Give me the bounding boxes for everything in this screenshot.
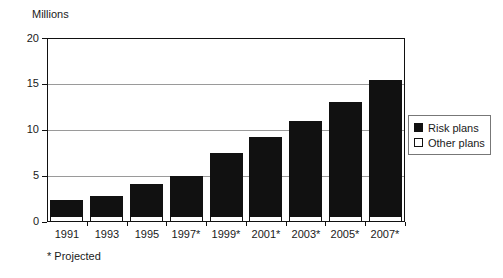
bar-segment-risk-plans [329,102,362,216]
bar-group [210,153,243,222]
bar-chart-figure: Millions 20 15 10 5 0 1991199319951997*1… [0,0,503,278]
bar-segment-other-plans [249,216,282,222]
bar-group [50,200,83,222]
x-tick-mark [127,222,128,226]
y-tick-mark-0 [42,222,47,223]
legend-label-other-plans: Other plans [428,137,485,149]
bar-segment-risk-plans [90,196,123,216]
y-tick-label-5: 5 [13,170,39,181]
bar-segment-other-plans [210,216,243,222]
bar-segment-other-plans [90,216,123,222]
x-tick-mark [246,222,247,226]
bar-segment-other-plans [130,216,163,222]
bar-group [170,176,203,222]
y-tick-label-15: 15 [13,78,39,89]
bar-group [289,121,322,222]
x-tick-mark [87,222,88,226]
bar-group [329,102,362,222]
bars-layer [47,38,405,222]
legend-label-risk-plans: Risk plans [428,122,479,134]
x-tick-label: 1997* [166,228,206,240]
y-tick-label-20: 20 [13,33,39,44]
bar-segment-risk-plans [130,184,163,216]
x-tick-label: 1991 [47,228,87,240]
bar-segment-risk-plans [170,176,203,216]
chart-legend: Risk plans Other plans [408,115,491,155]
x-tick-label: 1995 [127,228,167,240]
y-axis-title: Millions [32,8,69,21]
x-tick-mark [325,222,326,226]
x-tick-label: 2003* [286,228,326,240]
filled-square-swatch-icon [414,123,423,132]
chart-footnote: * Projected [47,250,101,263]
y-tick-label-0: 0 [13,216,39,227]
bar-segment-other-plans [170,216,203,222]
x-tick-mark [405,222,406,226]
x-tick-label: 1993 [87,228,127,240]
bar-segment-risk-plans [249,137,282,216]
bar-segment-risk-plans [289,121,322,216]
bar-segment-risk-plans [50,200,83,216]
bar-segment-risk-plans [210,153,243,216]
x-tick-mark [365,222,366,226]
legend-item-risk-plans: Risk plans [414,120,485,135]
legend-item-other-plans: Other plans [414,135,485,150]
hollow-square-swatch-icon [414,138,423,147]
y-tick-label-10: 10 [13,124,39,135]
bar-group [130,184,163,222]
x-tick-mark [166,222,167,226]
bar-group [90,196,123,222]
bar-group [249,137,282,222]
bar-segment-other-plans [289,216,322,222]
bar-segment-other-plans [50,216,83,222]
bar-group [369,80,402,222]
bar-segment-other-plans [369,216,402,222]
bar-segment-other-plans [329,216,362,222]
x-tick-label: 2007* [365,228,405,240]
x-tick-mark [206,222,207,226]
x-tick-label: 1999* [206,228,246,240]
x-tick-label: 2005* [325,228,365,240]
x-tick-label: 2001* [246,228,286,240]
bar-segment-risk-plans [369,80,402,216]
x-tick-mark [286,222,287,226]
